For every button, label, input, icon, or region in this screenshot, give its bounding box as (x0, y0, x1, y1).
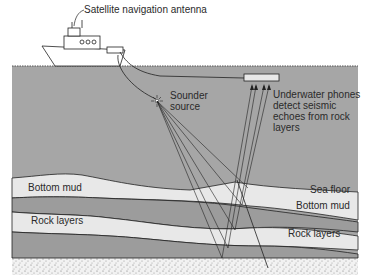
sea-floor-label: Sea floor (310, 184, 350, 195)
sounder-label: Sounder source (170, 90, 208, 112)
phones-label: Underwater phones detect seismic echoes … (273, 89, 360, 133)
bottom-mud-label-right: Bottom mud (296, 200, 350, 211)
antenna-pointer (74, 10, 84, 26)
rock-layers-label-left: Rock layers (31, 215, 83, 226)
survey-ship (42, 20, 125, 66)
antenna-label: Satellite navigation antenna (84, 4, 207, 15)
rock-layers-label-right: Rock layers (288, 228, 340, 239)
hydrophone-array (244, 74, 279, 81)
bottom-mud-label-left: Bottom mud (28, 182, 82, 193)
